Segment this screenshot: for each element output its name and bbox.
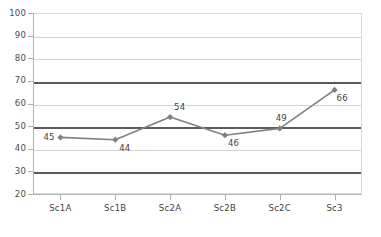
line-chart: 1009080706050403020 Sc1ASc1BSc2ASc2BSc2C… [0,0,381,237]
data-series [0,0,381,237]
point-value-label-Sc3: 66 [337,93,348,103]
point-value-label-Sc2B: 46 [228,138,239,148]
series-markers [57,87,337,143]
point-value-label-Sc2A: 54 [174,102,185,112]
point-value-label-Sc1A: 45 [43,132,54,142]
point-value-label-Sc2C: 49 [276,113,287,123]
point-value-label-Sc1B: 44 [119,143,130,153]
data-point-Sc1B [112,137,118,143]
data-point-Sc2A [167,114,173,120]
data-point-Sc1A [57,134,63,140]
series-line [60,90,334,140]
